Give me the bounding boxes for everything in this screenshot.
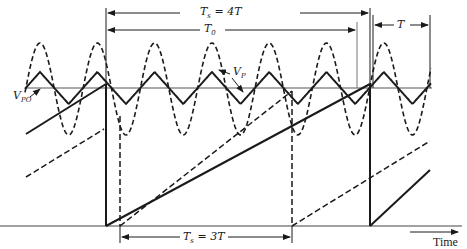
timing-diagram — [0, 0, 467, 249]
label-t0: T0 — [204, 23, 216, 37]
solid-sawtooth — [26, 84, 430, 226]
label-vpo: VPO — [13, 90, 31, 104]
time-axis-text: Time — [433, 235, 458, 249]
label-time-axis: Time — [433, 236, 458, 248]
label-ts-4t: Ts = 4T — [200, 6, 241, 20]
label-t-period: T — [397, 19, 404, 30]
vpo-leader — [30, 89, 40, 97]
vp-leader-1 — [219, 70, 230, 74]
label-vp: VP — [233, 66, 246, 80]
ts-top-rest: = 4T — [211, 5, 242, 18]
vp-main: V — [233, 65, 241, 78]
ts-bottom-rest: = 3T — [194, 230, 225, 243]
vpo-sub: PO — [21, 96, 31, 104]
t-period-main: T — [397, 18, 404, 31]
t0-sub: 0 — [211, 29, 215, 37]
label-ts-3t: Ts = 3T — [183, 231, 224, 245]
vpo-main: V — [13, 89, 21, 102]
vp-sub: P — [241, 72, 246, 80]
